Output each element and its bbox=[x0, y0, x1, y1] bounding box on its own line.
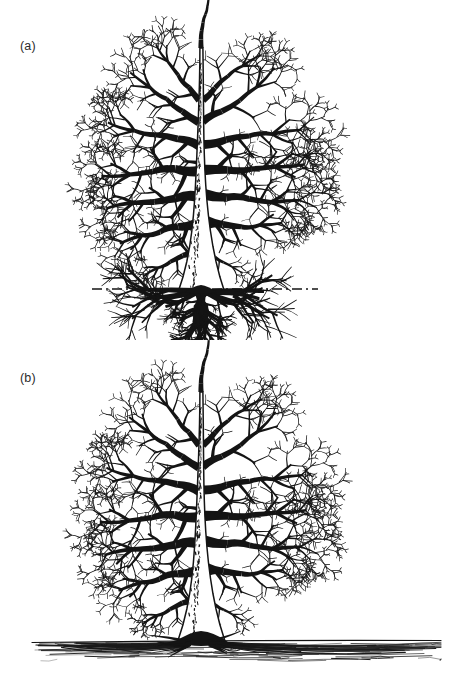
panel-b-illustration bbox=[0, 340, 451, 679]
panel-a-illustration bbox=[0, 0, 451, 340]
figure-root: (a) (b) bbox=[0, 0, 451, 679]
tree-a-drawing bbox=[65, 0, 350, 292]
panel-a: (a) bbox=[0, 0, 451, 340]
panel-b: (b) bbox=[0, 340, 451, 679]
tree-b-drawing bbox=[63, 340, 353, 640]
